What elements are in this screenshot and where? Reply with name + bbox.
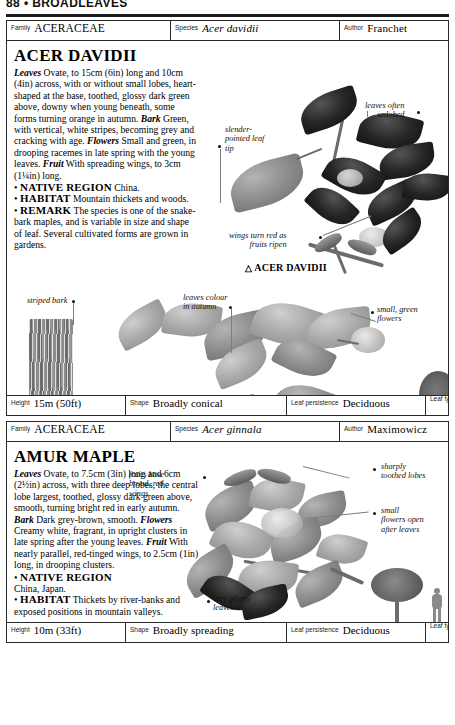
fact-item: • NATIVE REGION <box>14 572 199 583</box>
entry-footer-1: Height 15m (50ft) Shape Broadly conical … <box>7 395 448 415</box>
leaf-persistence-label-1: Leaf persistence <box>291 399 339 406</box>
annotation-slender-pointed-leaf-tip: slender- pointed leaf tip <box>225 125 264 153</box>
dot-green-flowers <box>371 311 374 314</box>
leaf-autumn-d <box>248 293 328 355</box>
author-value-2: Maximowicz <box>367 423 427 435</box>
maple-leaf-c <box>295 490 350 530</box>
shape-cell-1: Shape Broadly conical <box>125 396 286 415</box>
leaf-autumn-g <box>209 338 274 391</box>
leaf-type-cell-2: Leaf type <box>425 623 448 642</box>
leaf-persistence-value-2: Deciduous <box>343 624 390 636</box>
height-cell-1: Height 15m (50ft) <box>7 396 125 415</box>
leaf-persistence-cell-1: Leaf persistence Deciduous <box>286 396 425 415</box>
height-cell-2: Height 10m (33ft) <box>7 623 125 642</box>
running-head-text: 88 • BROADLEAVES <box>6 0 128 10</box>
leaf-persistence-label-2: Leaf persistence <box>291 626 339 633</box>
entry-footer-2: Height 10m (33ft) Shape Broadly spreadin… <box>7 622 448 642</box>
description-2: Leaves Ovate, to 7.5cm (3in) long and 6c… <box>14 468 199 571</box>
leaf-dark-a <box>295 85 363 136</box>
fact-lead: NATIVE REGION <box>20 571 112 583</box>
dot-fruits-broad-red-wings <box>203 476 206 479</box>
shape-cell-2: Shape Broadly spreading <box>125 623 286 642</box>
annotation-very-glossy-leaves: very glossy leaves <box>213 594 250 613</box>
maple-fruit-stalk <box>330 567 365 585</box>
fact-item: • REMARK The species is one of the snake… <box>14 205 199 251</box>
description-column-1: ACER DAVIDII Leaves Ovate, to 15cm (6in)… <box>14 45 199 251</box>
scale-tree-silhouette-2 <box>371 568 423 622</box>
family-cell-1: Family ACERACEAE <box>7 21 170 40</box>
dot-wings-red <box>319 236 322 239</box>
annotation-striped-bark: striped bark <box>27 296 67 305</box>
leaf-dark-fruit-side <box>375 207 429 256</box>
dot-sharply-toothed <box>373 468 376 471</box>
species-cell-2: Species Acer ginnala <box>170 422 339 441</box>
running-head: 88 • BROADLEAVES <box>6 0 449 13</box>
samara-1 <box>312 231 344 256</box>
family-label-2: Family <box>11 425 30 432</box>
fact-text: China, Japan. <box>14 583 66 594</box>
leaf-dark-c <box>377 141 437 180</box>
flower-cluster-right <box>351 327 385 353</box>
annotation-wings-turn-red: wings turn red as fruits ripen <box>229 231 287 250</box>
maple-leaf-f <box>315 528 368 571</box>
page-title-1: ACER DAVIDII <box>14 47 199 64</box>
annotation-small-flowers-open-after-leaves: small flowers open after leaves <box>381 506 424 534</box>
fruit-twig-branch <box>330 238 347 274</box>
leader-wings-red <box>323 216 372 236</box>
leaf-dark-f <box>303 178 360 234</box>
entry-body-1: ACER DAVIDII Leaves Ovate, to 15cm (6in)… <box>7 41 448 395</box>
fact-lead: NATIVE REGION <box>20 181 112 193</box>
caption-title-acer-davidii: ACER DAVIDII <box>254 262 327 273</box>
fact-lead: REMARK <box>20 204 71 216</box>
dot-autumn <box>229 306 232 309</box>
leaf-autumn-c <box>200 309 273 362</box>
author-value-1: Franchet <box>367 22 407 34</box>
family-label-1: Family <box>11 24 30 31</box>
leaf-dark-e <box>361 177 423 226</box>
leaf-autumn-e <box>305 306 373 350</box>
maple-samara-1 <box>222 467 258 489</box>
author-label-1: Author <box>344 24 363 31</box>
flower-cluster-upper <box>337 169 363 187</box>
book-page: 88 • BROADLEAVES Family ACERACEAE Specie… <box>0 0 455 725</box>
annotation-sharply-toothed-lobes: sharply toothed lobes <box>381 462 425 481</box>
maple-leaf-a <box>199 480 264 533</box>
caption-acer-davidii: △ ACER DAVIDII <box>245 263 327 274</box>
scale-tree-silhouette <box>415 371 448 395</box>
leaf-type-label-2: Leaf type <box>430 623 448 629</box>
author-cell-1: Author Franchet <box>339 21 448 40</box>
leader-striped-bark <box>73 303 74 325</box>
shape-label-2: Shape <box>130 626 149 633</box>
leaf-dark-g <box>401 170 448 204</box>
entry-body-2: AMUR MAPLE Leaves Ovate, to 7.5cm (3in) … <box>7 442 448 622</box>
annotation-leaves-often-unlobed: leaves often unlobed <box>365 101 404 120</box>
leaf-dark-d <box>320 147 387 205</box>
dot-striped-bark <box>72 300 75 303</box>
maple-leaf-e <box>265 517 326 565</box>
maple-main-stem <box>243 560 338 580</box>
shape-value-2: Broadly spreading <box>153 624 234 636</box>
branch-stem-1 <box>329 100 349 179</box>
leaf-pale-specimen <box>225 152 309 213</box>
entry-header-1: Family ACERACEAE Species Acer davidii Au… <box>7 21 448 41</box>
description-column-2: AMUR MAPLE Leaves Ovate, to 7.5cm (3in) … <box>14 446 199 617</box>
dot-very-glossy-leaves <box>207 600 210 603</box>
description-1: Leaves Ovate, to 15cm (6in) long and 10c… <box>14 67 199 181</box>
annotation-fruits-have-broad-red-wings: fruits have broad, red wings <box>129 470 164 498</box>
fact-list-1: • NATIVE REGION China.• HABITAT Mountain… <box>14 182 199 250</box>
header-rule <box>6 14 449 17</box>
leaf-persistence-cell-2: Leaf persistence Deciduous <box>286 623 425 642</box>
fact-lead: HABITAT <box>20 593 71 605</box>
species-label-2: Species <box>175 425 198 432</box>
author-cell-2: Author Maximowicz <box>339 422 448 441</box>
family-cell-2: Family ACERACEAE <box>7 422 170 441</box>
leaf-type-label-1: Leaf type <box>430 396 448 402</box>
maple-leaf-d <box>208 512 276 568</box>
flower-cluster-upper-2 <box>359 227 389 247</box>
dot-unlobed <box>417 111 420 114</box>
leader-sharply-toothed <box>303 466 350 479</box>
leader-slender-tip <box>220 149 221 203</box>
scale-human-figure-2 <box>431 588 443 622</box>
species-entry-amur-maple: Family ACERACEAE Species Acer ginnala Au… <box>6 421 449 643</box>
shape-value-1: Broadly conical <box>153 397 223 409</box>
